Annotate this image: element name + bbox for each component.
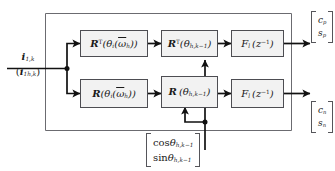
block-label: R(θi(ωh)) — [92, 89, 136, 99]
block-rotation-theta-h[interactable]: R (θh,k−1) — [161, 76, 218, 108]
block-filter-top[interactable]: Fl (z−1) — [231, 30, 284, 57]
output-sp: sp — [318, 27, 326, 41]
output-vector-negative: cn sn — [311, 101, 333, 133]
output-cn: cn — [318, 104, 326, 118]
vector-rows: cp sp — [316, 11, 328, 43]
block-rotation-transpose-theta-i[interactable]: RT(θi(ωh)) — [80, 30, 148, 57]
bracket-right — [328, 101, 333, 133]
bracket-right — [195, 133, 200, 167]
output-vector-positive: cp sp — [311, 11, 333, 43]
block-label: Fl (z−1) — [241, 39, 273, 49]
output-sn: sn — [318, 117, 326, 131]
input-signal-primary: i1,k — [6, 50, 50, 65]
vector-rows: cosθh,k−1 sinθh,k−1 — [151, 133, 195, 167]
input-signal-secondary: (i1h,k) — [6, 65, 50, 80]
block-label: RT(θh,k−1) — [168, 39, 212, 49]
bracket-right — [328, 11, 333, 43]
vector-rows: cn sn — [316, 101, 328, 133]
angle-cos-row: cosθh,k−1 — [153, 135, 193, 150]
block-label: R (θh,k−1) — [169, 87, 211, 97]
input-split-junction — [65, 66, 70, 71]
block-diagram-figure: i1,k (i1h,k) RT(θi(ωh)) RT(θh,k−1) Fl (z… — [0, 0, 335, 171]
angle-input-vector: cosθh,k−1 sinθh,k−1 — [146, 133, 200, 167]
angle-feed-junction — [203, 120, 208, 125]
block-rotation-transpose-theta-h[interactable]: RT(θh,k−1) — [161, 30, 218, 57]
angle-sin-row: sinθh,k−1 — [153, 150, 193, 165]
output-cp: cp — [318, 14, 326, 28]
input-signal-label: i1,k (i1h,k) — [6, 50, 50, 79]
block-label: RT(θi(ωh)) — [90, 39, 138, 49]
block-rotation-theta-i[interactable]: R(θi(ωh)) — [80, 79, 148, 108]
block-label: Fl (z−1) — [241, 89, 273, 99]
block-filter-bottom[interactable]: Fl (z−1) — [231, 79, 284, 108]
